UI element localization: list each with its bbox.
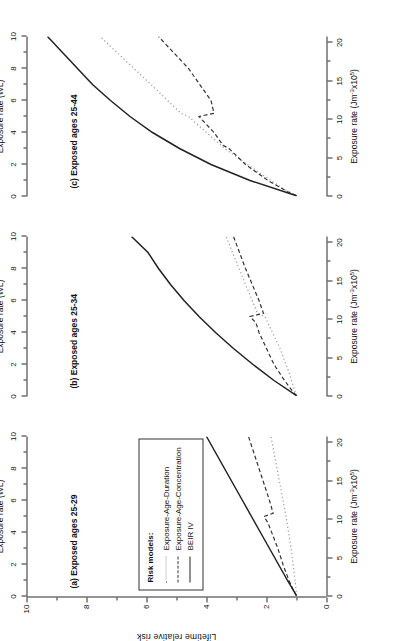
bottom-axis-tick-label: 10 [334,115,343,124]
legend-entry-3: BEIR IV [183,447,195,582]
series-beir-iv [131,236,296,395]
y-axis-tick-label: 6 [142,604,151,608]
bottom-axis-tick [327,357,332,358]
bottom-axis-tick [327,157,332,158]
bottom-axis-tick-label: 10 [334,515,343,524]
top-axis-tick-label: 4 [8,330,17,334]
top-axis-tick [21,467,26,468]
bottom-axis-minor-tick [327,176,330,177]
bottom-axis-minor-tick [327,137,330,138]
top-axis-tick-label: 0 [8,594,17,598]
top-axis-tick-label: 6 [8,298,17,302]
top-axis-tick [21,395,26,396]
y-axis-minor-tick [176,597,177,600]
bottom-axis-tick [327,480,332,481]
top-axis-tick [21,267,26,268]
bottom-axis-tick [327,441,332,442]
bottom-axis-tick-label: 15 [334,76,343,85]
y-axis-minor-tick [116,597,117,600]
y-axis-tick-label: 0 [322,604,331,608]
bottom-axis-tick-label: 0 [334,594,343,598]
bottom-axis-tick [327,241,332,242]
bottom-axis-minor-tick [327,460,330,461]
bottom-axis-tick [327,118,332,119]
top-axis-tick [21,299,26,300]
top-axis-tick-label: 6 [8,498,17,502]
legend-swatch-dashed-icon [177,556,178,582]
legend-swatch-solid-icon [189,556,190,582]
y-axis-tick [326,597,327,602]
top-axis-tick [21,99,26,100]
top-axis-tick-label: 2 [8,562,17,566]
bottom-axis-tick-label: 20 [334,438,343,447]
y-axis-minor-tick [296,597,297,600]
bottom-axis-minor-tick [327,299,330,300]
bottom-axis-tick [327,195,332,196]
bottom-axis-tick [327,318,332,319]
top-axis-tick-label: 10 [8,432,17,441]
top-axis-tick-label: 10 [8,232,17,241]
top-axis-tick-label: 8 [8,266,17,270]
top-axis-tick-label: 10 [8,32,17,41]
y-axis-minor-tick [56,597,57,600]
legend-rows: Exposure-Age-DurationExposure-Age-Concen… [159,447,195,582]
bottom-axis-minor-tick [327,499,330,500]
top-axis-tick [21,195,26,196]
top-axis-tick-label: 4 [8,130,17,134]
bottom-axis-tick-label: 0 [334,394,343,398]
top-axis-tick [21,331,26,332]
bottom-axis-title: Exposure rate (Jm-3x105) [348,269,359,364]
panel-b: 024681005101520Exposure rate (WL)Exposur… [26,236,326,396]
top-axis-tick [21,235,26,236]
bottom-axis-minor-tick [327,537,330,538]
top-axis-tick-label: 8 [8,466,17,470]
top-axis-tick [21,499,26,500]
bottom-axis-tick-label: 20 [334,238,343,247]
bottom-axis-tick [327,595,332,596]
bottom-axis-minor-tick [327,99,330,100]
bottom-axis-tick [327,557,332,558]
top-axis-tick [21,363,26,364]
bottom-axis-tick-label: 5 [334,355,343,359]
series-beir-iv [206,436,296,595]
top-axis-tick [21,131,26,132]
bottom-axis-tick-label: 15 [334,276,343,285]
top-axis-tick-label: 8 [8,66,17,70]
bottom-axis-tick-label: 20 [334,38,343,47]
bottom-axis-tick [327,41,332,42]
bottom-axis-title: Exposure rate (Jm-3x105) [348,69,359,164]
bottom-axis-minor-tick [327,376,330,377]
series-exposure-age-duration [271,436,297,595]
y-axis-tick-label: 8 [82,604,91,608]
bottom-axis-title: Exposure rate (Jm-3x105) [348,469,359,564]
legend-box: Risk models: Exposure-Age-DurationExposu… [138,438,203,590]
top-axis-title: Exposure rate (WL) [0,479,4,553]
y-axis-tick [26,597,27,602]
bottom-axis-tick-label: 5 [334,155,343,159]
bottom-axis-minor-tick [327,576,330,577]
y-axis-tick [206,597,207,602]
legend-swatch-dotted-icon [165,556,166,582]
legend-title: Risk models: [145,447,154,582]
bottom-axis-tick [327,395,332,396]
plot-curves-b [26,236,326,396]
bottom-axis-tick-label: 15 [334,476,343,485]
legend-entry-2: Exposure-Age-Concentration [171,447,183,582]
panel-c: 024681005101520Exposure rate (WL)Exposur… [26,36,326,196]
top-axis-tick [21,531,26,532]
top-axis-tick [21,563,26,564]
top-axis-tick-label: 2 [8,362,17,366]
y-axis-tick-label: 4 [202,604,211,608]
bottom-axis-tick [327,80,332,81]
top-axis-title: Exposure rate (WL) [0,79,4,153]
top-axis-title: Exposure rate (WL) [0,279,4,353]
legend-entry-1: Exposure-Age-Duration [159,447,171,582]
bottom-axis-tick-label: 0 [334,194,343,198]
bottom-axis-minor-tick [327,60,330,61]
top-axis-tick-label: 0 [8,194,17,198]
y-axis-tick [146,597,147,602]
bottom-axis-minor-tick [327,337,330,338]
y-axis-title: Lifetime relative risk [136,631,216,641]
